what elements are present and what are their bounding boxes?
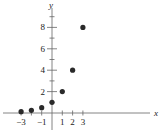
scatter-chart: −3−11232468 x y (0, 0, 164, 137)
y-tick-label: 2 (41, 87, 46, 97)
data-point (49, 100, 54, 105)
y-tick-label: 6 (41, 44, 46, 54)
data-point (39, 105, 44, 110)
y-tick-label: 4 (41, 65, 46, 75)
y-axis-label: y (48, 0, 53, 10)
axes (3, 8, 150, 130)
data-point (80, 25, 85, 30)
x-tick-label: 2 (70, 117, 75, 127)
data-point (19, 109, 24, 114)
ticks: −3−11232468 (16, 17, 85, 127)
x-axis-label: x (153, 108, 158, 118)
data-point (70, 68, 75, 73)
data-point (29, 108, 34, 113)
x-tick-label: 3 (81, 117, 86, 127)
x-tick-label: 1 (60, 117, 65, 127)
data-point (60, 89, 65, 94)
x-tick-label: −1 (37, 117, 47, 127)
y-tick-label: 8 (41, 22, 46, 32)
x-tick-label: −3 (16, 117, 26, 127)
